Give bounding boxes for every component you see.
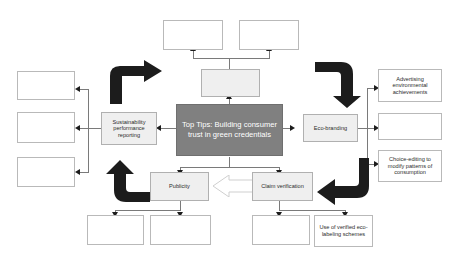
arrowhead-left-three — [75, 169, 80, 175]
blank-box-top-right[interactable] — [239, 20, 299, 50]
node-advertising-environmental-achievements[interactable]: Advertising environmental achievements — [378, 69, 442, 102]
connector-left-one — [79, 89, 89, 90]
diagram-canvas: Top Tips: Building consumer trust in gre… — [0, 0, 457, 261]
blank-box-bottom-left-one[interactable] — [87, 215, 144, 245]
connector-left-spine — [88, 89, 89, 173]
cycle-arrow-lower-right — [315, 158, 375, 206]
node-eco-branding[interactable]: Eco-branding — [303, 114, 358, 142]
connector-left-three — [79, 172, 89, 173]
connector-core-down — [229, 157, 230, 167]
blank-box-right-middle[interactable] — [378, 113, 442, 140]
node-sustainability-performance-reporting[interactable]: Sustainability performance reporting — [101, 112, 157, 145]
connector-bottom-right-bar — [279, 210, 345, 211]
node-use-of-verified-eco-labeling-schemes[interactable]: Use of verified eco-labeling schemes — [314, 215, 373, 247]
connector-top-right-stem — [269, 50, 270, 59]
hollow-arrow-claim-to-publicity — [212, 175, 256, 197]
arrowhead-left-one — [75, 86, 80, 92]
blank-box-bottom-right-one[interactable] — [252, 215, 310, 245]
connector-left-two — [79, 128, 89, 129]
blank-box-top-left[interactable] — [163, 20, 223, 50]
connector-bottom-bar — [180, 167, 279, 168]
blank-box-left-three[interactable] — [17, 157, 75, 187]
connector-sustainability-to-spine — [88, 128, 101, 129]
blank-box-left-two[interactable] — [17, 112, 75, 143]
blank-box-above-center[interactable] — [201, 69, 260, 97]
node-publicity[interactable]: Publicity — [150, 172, 209, 201]
blank-box-bottom-left-two[interactable] — [150, 215, 211, 245]
cycle-arrow-upper-left — [104, 60, 164, 104]
connector-bottom-left-bar — [115, 210, 181, 211]
connector-core-to-sustainability — [160, 128, 176, 129]
connector-top-left-stem — [193, 50, 194, 59]
central-node-top-tips[interactable]: Top Tips: Building consumer trust in gre… — [176, 104, 283, 156]
node-claim-verification[interactable]: Claim verification — [252, 172, 313, 201]
node-choice-editing[interactable]: Choice-editing to modify patterns of con… — [378, 150, 442, 182]
connector-publicity-down — [180, 200, 181, 210]
connector-claim-down — [279, 200, 280, 210]
arrowhead-left-two — [75, 125, 80, 131]
blank-box-left-one[interactable] — [17, 71, 75, 100]
arrowhead-ecobranding — [290, 125, 295, 131]
cycle-arrow-upper-right — [315, 58, 369, 108]
connector-top-bar — [193, 58, 270, 59]
